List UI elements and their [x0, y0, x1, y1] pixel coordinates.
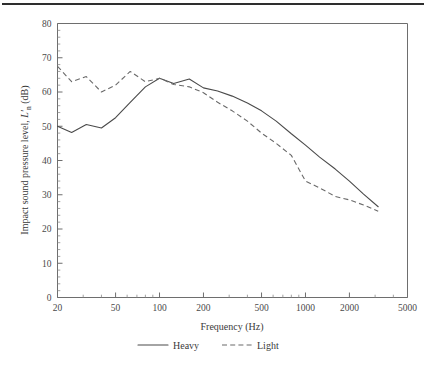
y-tick-label: 10	[42, 259, 52, 269]
chart-legend: Heavy Light	[138, 340, 279, 351]
series-line-heavy	[58, 78, 379, 206]
x-tick-label: 200	[196, 303, 211, 313]
x-tick-label: 20	[53, 303, 63, 313]
data-series-group	[58, 66, 379, 211]
y-axis-title-unit: (dB)	[19, 85, 31, 106]
legend-label-light: Light	[257, 340, 279, 351]
x-tick-label: 100	[152, 303, 167, 313]
plot-axes	[58, 24, 408, 298]
legend-label-heavy: Heavy	[173, 340, 199, 351]
axis-frame	[58, 24, 408, 298]
x-axis-title: Frequency (Hz)	[200, 321, 263, 333]
x-tick-label: 1000	[296, 303, 315, 313]
x-axis-ticks	[58, 293, 408, 298]
y-tick-label: 70	[42, 53, 52, 63]
series-line-light	[58, 66, 379, 211]
y-tick-label: 40	[42, 156, 52, 166]
y-tick-label: 50	[42, 122, 52, 132]
svg-text:Impact sound pressure level, L: Impact sound pressure level, L′n (dB)	[19, 85, 33, 234]
y-tick-label: 30	[42, 190, 52, 200]
y-axis-tick-labels: 01020304050607080	[42, 19, 52, 303]
y-axis-ticks	[58, 24, 63, 298]
impact-sound-pressure-chart: 01020304050607080 2050100200500100020005…	[0, 0, 426, 372]
y-tick-label: 80	[42, 19, 52, 29]
x-tick-label: 2000	[340, 303, 359, 313]
y-tick-label: 20	[42, 224, 52, 234]
x-tick-label: 500	[254, 303, 269, 313]
x-tick-label: 50	[111, 303, 121, 313]
x-tick-label: 5000	[398, 303, 417, 313]
y-axis-title: Impact sound pressure level, L′n (dB)	[19, 85, 33, 234]
y-axis-title-main: Impact sound pressure level,	[19, 118, 30, 235]
figure-container: 01020304050607080 2050100200500100020005…	[0, 0, 426, 372]
x-axis-tick-labels: 2050100200500100020005000	[53, 303, 418, 313]
y-tick-label: 60	[42, 87, 52, 97]
y-tick-label: 0	[47, 293, 52, 303]
